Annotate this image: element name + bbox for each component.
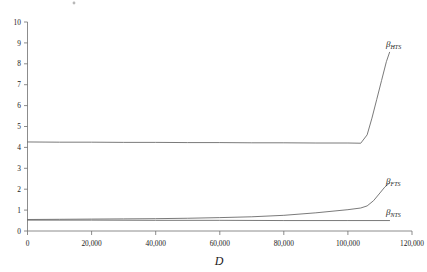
y-tick-label: 2 <box>17 185 21 194</box>
y-tick-label: 3 <box>17 164 21 173</box>
y-tick-label: 9 <box>17 39 21 48</box>
x-tick-label: 120,000 <box>400 239 424 248</box>
y-tick-label: 5 <box>17 122 21 131</box>
y-tick-label: 6 <box>17 101 21 110</box>
y-tick-label: 4 <box>17 143 21 152</box>
y-tick-label: 0 <box>17 227 21 236</box>
x-tick-label: 100,000 <box>336 239 360 248</box>
x-tick-label: 0 <box>26 239 30 248</box>
x-tick-label: 60,000 <box>210 239 231 248</box>
image-artifact-speck <box>73 2 76 5</box>
line-chart: 10 9 8 7 6 5 4 3 2 1 0 0 20,000 40,000 6… <box>0 0 427 272</box>
x-axis-title: D <box>214 254 224 268</box>
y-tick-label: 8 <box>17 59 21 68</box>
x-tick-label: 20,000 <box>81 239 102 248</box>
chart-figure: 10 9 8 7 6 5 4 3 2 1 0 0 20,000 40,000 6… <box>0 0 427 272</box>
y-tick-label: 10 <box>14 18 22 27</box>
y-tick-label: 1 <box>17 206 21 215</box>
y-tick-label: 7 <box>17 80 21 89</box>
x-tick-label: 80,000 <box>274 239 295 248</box>
x-tick-label: 40,000 <box>146 239 167 248</box>
